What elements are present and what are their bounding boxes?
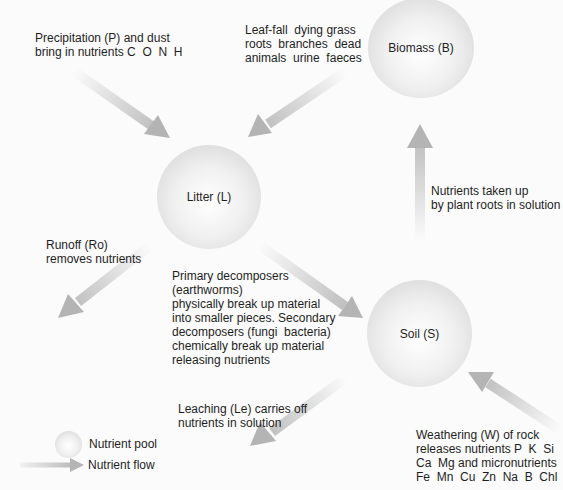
legend-flow-label: Nutrient flow bbox=[88, 458, 155, 472]
precipitation-flow-label: Precipitation (P) and dust bring in nutr… bbox=[35, 31, 182, 59]
decomposition-flow-label: Primary decomposers (earthworms) physica… bbox=[172, 269, 335, 367]
precipitation-arrow bbox=[75, 72, 170, 138]
biomass-pool: Biomass (B) bbox=[368, 0, 474, 98]
runoff-flow-label: Runoff (Ro) removes nutrients bbox=[46, 238, 141, 266]
litterfall-flow-label: Leaf-fall dying grass roots branches dea… bbox=[245, 23, 362, 65]
biomass-label: Biomass (B) bbox=[388, 41, 453, 55]
weathering-flow-label: Weathering (W) of rock releases nutrient… bbox=[416, 428, 557, 484]
legend-pool-label: Nutrient pool bbox=[89, 437, 157, 451]
litter-label: Litter (L) bbox=[187, 190, 232, 204]
soil-pool: Soil (S) bbox=[367, 280, 472, 387]
litterfall-arrow bbox=[248, 72, 345, 137]
uptake-flow-label: Nutrients taken up by plant roots in sol… bbox=[431, 184, 560, 212]
uptake-arrow bbox=[407, 124, 433, 242]
legend-flow-arrow bbox=[20, 458, 84, 472]
legend-pool-swatch bbox=[55, 431, 82, 458]
weathering-arrow bbox=[468, 372, 563, 432]
gersmehl-nutrient-cycle-diagram: Biomass (B) Litter (L) Soil (S) Precipit… bbox=[0, 0, 563, 490]
soil-label: Soil (S) bbox=[400, 327, 439, 341]
leaching-flow-label: Leaching (Le) carries off nutrients in s… bbox=[178, 402, 307, 430]
litter-pool: Litter (L) bbox=[157, 145, 261, 249]
